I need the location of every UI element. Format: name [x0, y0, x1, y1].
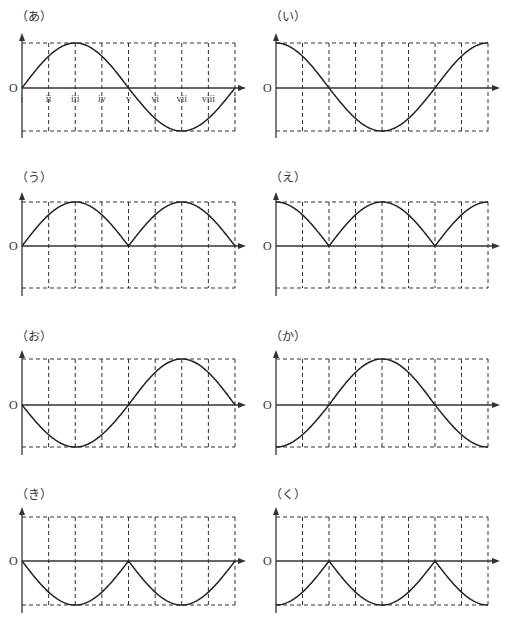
- panel-u: （う）O: [9, 171, 246, 296]
- origin-label: O: [263, 239, 272, 253]
- origin-label: O: [9, 239, 18, 253]
- x-axis-arrow-icon: [238, 402, 246, 408]
- tick-label: i: [234, 93, 237, 104]
- y-axis-arrow-icon: [273, 350, 279, 358]
- origin-label: O: [263, 398, 272, 412]
- panel-label: （か）: [270, 330, 306, 344]
- tick-label: v: [126, 93, 131, 104]
- y-axis-arrow-icon: [19, 33, 25, 41]
- panel-a: （あ）Oiiiiiiivvviviiviiii: [9, 10, 246, 138]
- tick-label: iii: [71, 93, 80, 104]
- panel-label: （い）: [270, 10, 306, 24]
- x-axis-arrow-icon: [492, 243, 500, 249]
- x-axis-arrow-icon: [492, 402, 500, 408]
- tick-label: viii: [202, 93, 216, 104]
- x-axis-arrow-icon: [492, 558, 500, 564]
- panel-label: （あ）: [16, 10, 52, 24]
- origin-label: O: [263, 81, 272, 95]
- y-axis-arrow-icon: [273, 507, 279, 515]
- y-axis-arrow-icon: [273, 192, 279, 200]
- x-axis-arrow-icon: [238, 558, 246, 564]
- panel-ku: （く）O: [263, 488, 500, 613]
- panel-label: （き）: [16, 488, 52, 502]
- panel-label: （う）: [16, 171, 52, 185]
- waveform-figure: （あ）Oiiiiiiivvviviiviiii（い）O（う）O（え）O（お）O（…: [0, 0, 512, 617]
- x-axis-arrow-icon: [238, 85, 246, 91]
- y-axis-arrow-icon: [19, 192, 25, 200]
- panel-label: （く）: [270, 488, 306, 502]
- panel-label: （え）: [270, 171, 306, 185]
- origin-label: O: [9, 81, 18, 95]
- panel-i: （い）O: [263, 10, 500, 138]
- tick-label: ii: [46, 93, 52, 104]
- x-axis-arrow-icon: [492, 85, 500, 91]
- tick-label: i: [21, 93, 24, 104]
- origin-label: O: [9, 554, 18, 568]
- panel-label: （お）: [16, 330, 52, 344]
- y-axis-arrow-icon: [19, 507, 25, 515]
- panel-e: （え）O: [263, 171, 500, 296]
- y-axis-arrow-icon: [273, 33, 279, 41]
- origin-label: O: [9, 398, 18, 412]
- panel-ka: （か）O: [263, 330, 500, 455]
- panels-group: （あ）Oiiiiiiivvviviiviiii（い）O（う）O（え）O（お）O（…: [9, 10, 500, 613]
- tick-label: vi: [151, 93, 159, 104]
- x-axis-arrow-icon: [238, 243, 246, 249]
- origin-label: O: [263, 554, 272, 568]
- tick-label: iv: [98, 93, 106, 104]
- waveform-curve: [22, 43, 235, 131]
- y-axis-arrow-icon: [19, 350, 25, 358]
- panel-ki: （き）O: [9, 488, 246, 613]
- panel-o: （お）O: [9, 330, 246, 455]
- tick-label: vii: [176, 93, 187, 104]
